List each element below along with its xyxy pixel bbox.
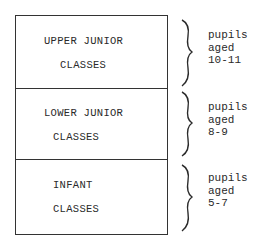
curly-brace-icon bbox=[178, 90, 198, 158]
age-label-line: aged bbox=[208, 42, 248, 55]
age-label-line: 5-7 bbox=[208, 197, 248, 210]
age-label-line: 10-11 bbox=[208, 54, 248, 67]
section-infant bbox=[15, 159, 168, 235]
lower-junior-label-line1: LOWER JUNIOR bbox=[44, 108, 123, 119]
age-label-line: pupils bbox=[208, 172, 248, 185]
age-label-line: aged bbox=[208, 114, 248, 127]
age-label-lower-junior: pupils aged 8-9 bbox=[208, 101, 248, 139]
infant-label-line1: INFANT bbox=[53, 180, 93, 191]
age-label-line: 8-9 bbox=[208, 126, 248, 139]
curly-brace-icon bbox=[178, 163, 198, 233]
lower-junior-label-line2: CLASSES bbox=[53, 132, 99, 143]
section-lower-junior bbox=[15, 88, 168, 160]
upper-junior-label-line1: UPPER JUNIOR bbox=[44, 36, 123, 47]
curly-brace-icon bbox=[178, 18, 198, 88]
age-label-line: aged bbox=[208, 185, 248, 198]
upper-junior-label-line2: CLASSES bbox=[60, 60, 106, 71]
section-upper-junior bbox=[15, 15, 168, 89]
infant-label-line2: CLASSES bbox=[53, 204, 99, 215]
age-label-line: pupils bbox=[208, 101, 248, 114]
age-label-line: pupils bbox=[208, 29, 248, 42]
age-label-infant: pupils aged 5-7 bbox=[208, 172, 248, 210]
age-label-upper-junior: pupils aged 10-11 bbox=[208, 29, 248, 67]
